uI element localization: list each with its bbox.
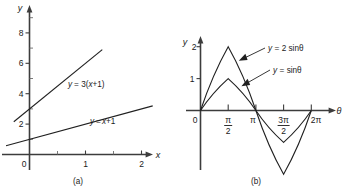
panel-b-xtick-pi-over-2-den: 2 [226,126,231,136]
panel-a-caption: (a) [73,177,83,186]
panel-a-y-ticks: 2 4 6 8 [19,18,33,140]
panel-b-origin-label: 0 [193,115,198,125]
panel-b-x-axis-label: θ [337,106,342,116]
figure-container: y x 2 4 6 8 [0,0,347,188]
panel-a-xtick-2: 2 [139,159,144,169]
panel-a-label1-y: y [67,80,73,89]
panel-b-label2-y: y [272,66,278,75]
panel-a-label1-eq: = 3( [74,80,89,89]
panel-a-y-axis-label: y [17,3,23,13]
panel-a-label1-tail: +1) [93,80,105,89]
panel-b-label1-y: y [267,44,273,53]
panel-a-line-x1 [6,106,153,146]
panel-a-label-line2: y=x+1 [89,117,116,126]
panel-b-ytick-1: 1 [190,74,195,84]
panel-b-x-ticks: 0 π 2 π 3π 2 2π [193,105,322,137]
panel-b-xtick-3pi-over-2-num: 3π [278,115,289,125]
panel-a-x-axis-label: x [155,150,161,160]
panel-a-ytick-4: 4 [19,89,24,99]
panel-a: y x 2 4 6 8 [2,3,161,186]
panel-b-xtick-pi: π [250,115,256,125]
panel-a-label2-tail: +1 [106,117,116,126]
svg-text:y= 2 sinθ: y= 2 sinθ [267,44,304,53]
panel-b-xtick-3pi-over-2-den: 2 [281,126,286,136]
panel-b-xtick-pi-over-2-num: π [225,115,231,125]
panel-b-xtick-3pi-over-2: 3π 2 [278,115,290,136]
panel-b-caption: (b) [251,177,261,186]
panel-b-leader-sin: y= sinθ [241,66,302,86]
svg-text:y=x+1: y=x+1 [89,117,116,126]
panel-a-ytick-2: 2 [19,119,24,129]
panel-b-ytick-2: 2 [192,42,197,52]
svg-text:y= sinθ: y= sinθ [272,66,302,75]
panel-b-y-ticks: 1 2 [190,42,201,84]
panel-a-label2-eq: = [96,117,101,126]
svg-text:y= 3(x+1): y= 3(x+1) [67,80,105,89]
panel-a-ytick-8: 8 [19,28,24,38]
panel-b-label1-rest: = 2 sinθ [275,44,304,53]
panel-b-xtick-2pi: 2π [311,115,322,125]
panel-b-y-axis: y [182,36,204,170]
panel-a-xtick-1: 1 [83,159,88,169]
panel-b: y θ 1 2 0 π 2 π [182,36,342,186]
panel-b-label2-rest: = sinθ [280,66,303,75]
panel-a-label-line1: y= 3(x+1) [67,80,105,89]
panel-b-leader-2sin: y= 2 sinθ [239,44,304,61]
panel-b-y-axis-label: y [182,37,188,47]
panel-a-origin-label: 0 [22,159,27,169]
panel-a-ytick-6: 6 [19,58,24,68]
panel-a-x-ticks: 0 1 2 [22,151,145,170]
panel-b-xtick-pi-over-2: π 2 [224,115,232,136]
